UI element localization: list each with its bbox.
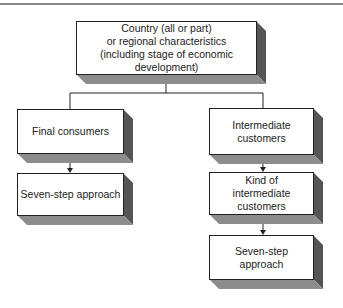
box-label: Kind of intermediate customers [209, 172, 314, 215]
box-label: Country (all or part) or regional charac… [76, 21, 257, 75]
box-label: Seven-step approach [17, 173, 124, 216]
box-label: Final consumers [17, 109, 124, 154]
box-label: Intermediate customers [209, 108, 314, 155]
box-label: Seven-step approach [209, 235, 314, 280]
